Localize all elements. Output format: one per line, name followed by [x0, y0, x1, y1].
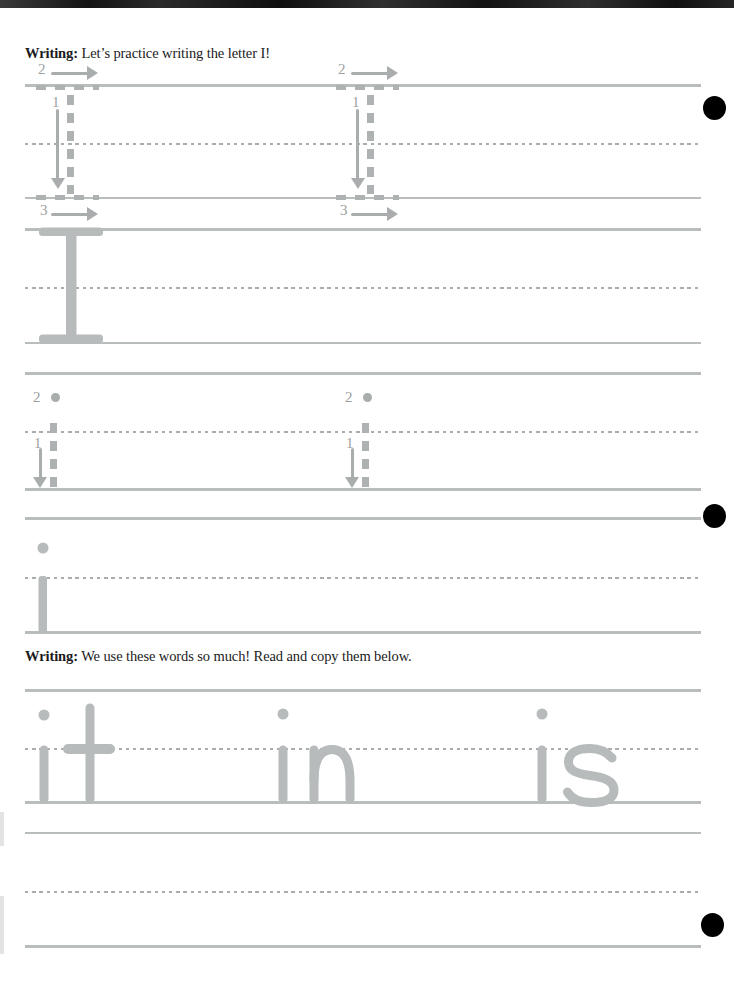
- punch-dot: [701, 913, 724, 937]
- worksheet-page: Writing: Let’s practice writing the lett…: [0, 0, 734, 990]
- traced-letter-lowercase-i: [38, 543, 49, 634]
- practice-word-it: [39, 708, 111, 799]
- punch-dot: [703, 96, 726, 120]
- practice-word-in: [278, 709, 351, 800]
- punch-dot: [703, 504, 726, 528]
- scan-artifact: [0, 812, 4, 846]
- scan-artifact: [0, 896, 4, 954]
- traced-letter-uppercase-I: [39, 228, 103, 344]
- traced-glyph-layer: [0, 0, 734, 990]
- practice-word-is: [537, 709, 615, 803]
